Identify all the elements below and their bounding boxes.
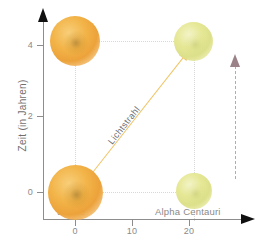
- x-axis-arrow-icon: [241, 214, 255, 224]
- elapsed-time-arrow-icon: [230, 54, 240, 67]
- elapsed-time-dashed-line: [235, 66, 236, 179]
- x-tick-mark: [132, 219, 133, 226]
- celestial-body-sun-top: [50, 16, 100, 66]
- celestial-body-sun-bottom: [48, 165, 103, 220]
- x-tick-label-20: 20: [179, 226, 199, 236]
- x-tick-mark: [189, 219, 190, 226]
- x-tick-label-10: 10: [122, 226, 142, 236]
- celestial-body-alpha-centauri-top: [174, 22, 213, 61]
- y-tick-mark: [37, 192, 44, 193]
- y-tick-mark: [37, 45, 44, 46]
- y-axis-line: [43, 20, 44, 220]
- x-tick-mark: [75, 219, 76, 226]
- y-tick-label-0: 0: [17, 187, 33, 197]
- y-tick-mark: [37, 116, 44, 117]
- light-ray-label: Lichtstrahl: [106, 104, 142, 146]
- y-axis-title: Zeit (in Jahren): [17, 56, 28, 176]
- y-tick-label-4: 4: [17, 40, 33, 50]
- y-axis-arrow-icon: [38, 8, 48, 22]
- celestial-body-alpha-centauri-bottom: [176, 173, 212, 209]
- diagram-canvas: 4 2 0 0 10 20 Zeit (in Jahren) Sonne Alp…: [0, 0, 271, 248]
- x-tick-label-0: 0: [65, 226, 85, 236]
